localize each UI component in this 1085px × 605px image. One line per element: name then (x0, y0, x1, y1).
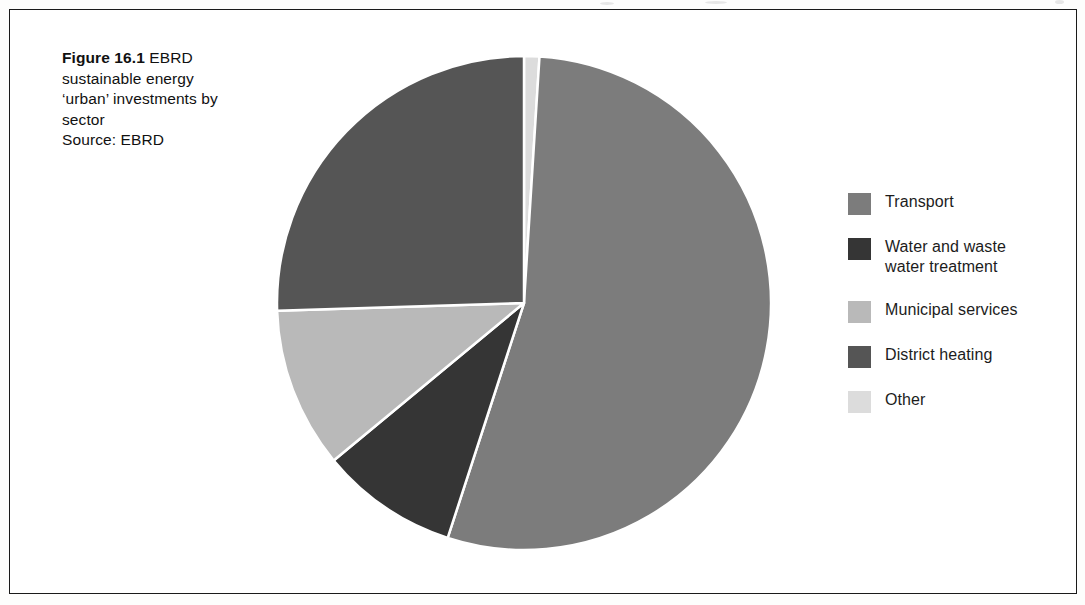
legend-label-district-heating: District heating (885, 345, 992, 365)
scan-artifact (1055, 0, 1064, 4)
caption-line-2: sustainable energy (62, 69, 277, 90)
legend-swatch-icon-other (848, 391, 871, 413)
legend-label-municipal-services: Municipal services (885, 300, 1018, 320)
scan-artifact (600, 2, 614, 5)
legend-item-water-and-waste-water-treatment[interactable]: Water and waste water treatment (848, 237, 1063, 278)
scan-artifact (705, 1, 727, 4)
legend-swatch-icon-district-heating (848, 346, 871, 368)
legend-swatch-icon-transport (848, 193, 871, 215)
legend-label-water-and-waste-water-treatment: Water and waste water treatment (885, 237, 1006, 278)
legend-label-transport: Transport (885, 192, 954, 212)
legend-item-transport[interactable]: Transport (848, 192, 1063, 215)
figure-number: Figure 16.1 (62, 49, 145, 66)
legend-label-other: Other (885, 390, 926, 410)
legend-swatch-icon-water-and-waste-water-treatment (848, 238, 871, 260)
legend-swatch-icon-municipal-services (848, 301, 871, 323)
page-background: Figure 16.1 EBRD sustainable energy ‘urb… (0, 0, 1085, 605)
legend-item-municipal-services[interactable]: Municipal services (848, 300, 1063, 323)
figure-caption: Figure 16.1 EBRD sustainable energy ‘urb… (62, 48, 277, 151)
caption-line-3: ‘urban’ investments by (62, 89, 277, 110)
legend-item-district-heating[interactable]: District heating (848, 345, 1063, 368)
caption-line-1: EBRD (149, 49, 192, 66)
figure-frame: Figure 16.1 EBRD sustainable energy ‘urb… (9, 9, 1077, 594)
chart-legend: Transport Water and waste water treatmen… (848, 192, 1063, 413)
legend-item-other[interactable]: Other (848, 390, 1063, 413)
caption-line-4: sector (62, 110, 277, 131)
figure-source: Source: EBRD (62, 130, 277, 151)
